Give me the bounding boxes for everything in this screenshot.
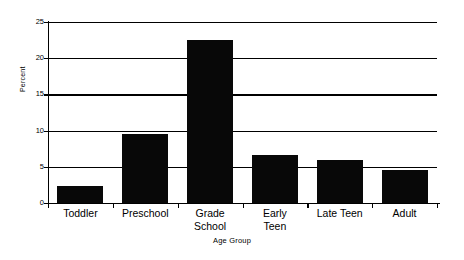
x-axis-category-label: Adult [372, 207, 437, 220]
x-axis-category-label-line: School [178, 220, 243, 233]
x-axis-tick-mark [437, 203, 438, 208]
bar [252, 155, 298, 203]
bar [57, 186, 103, 203]
x-axis-tick-mark [307, 203, 308, 208]
bar [317, 160, 363, 203]
x-axis-tick-mark [243, 203, 244, 208]
x-axis-category-label: GradeSchool [178, 207, 243, 232]
y-axis-tick-label: 25 [28, 18, 44, 26]
y-axis-tick-label: 0 [28, 199, 44, 207]
x-axis-category-label: Late Teen [307, 207, 372, 220]
x-axis-category-label-line: Late Teen [307, 207, 372, 220]
x-axis-category-label-line: Early [243, 207, 308, 220]
x-axis-category-label-line: Teen [243, 220, 308, 233]
y-axis-title: Percent [19, 32, 26, 92]
y-axis-tick-label: 15 [28, 90, 44, 98]
y-axis-tick-label: 20 [28, 54, 44, 62]
x-axis-tick-mark [48, 203, 49, 208]
x-axis-tick-mark [113, 203, 114, 208]
x-axis-tick-mark [178, 203, 179, 208]
bars-layer [48, 22, 437, 203]
bar [187, 40, 233, 203]
x-axis-category-label-line: Preschool [113, 207, 178, 220]
bar [122, 134, 168, 203]
x-axis-category-label: Toddler [48, 207, 113, 220]
x-axis-category-label: Preschool [113, 207, 178, 220]
x-axis-tick-mark [372, 203, 373, 208]
y-axis-tick-labels: 0510152025 [28, 0, 44, 260]
bar [382, 170, 428, 203]
x-axis-title: Age Group [0, 236, 464, 245]
bar-chart: Percent 0510152025 ToddlerPreschoolGrade… [0, 0, 464, 260]
x-axis-category-label-line: Adult [372, 207, 437, 220]
y-axis-tick-label: 5 [28, 163, 44, 171]
x-axis-category-label-line: Toddler [48, 207, 113, 220]
x-axis-category-label-line: Grade [178, 207, 243, 220]
y-axis-tick-label: 10 [28, 127, 44, 135]
x-axis-category-label: EarlyTeen [243, 207, 308, 232]
